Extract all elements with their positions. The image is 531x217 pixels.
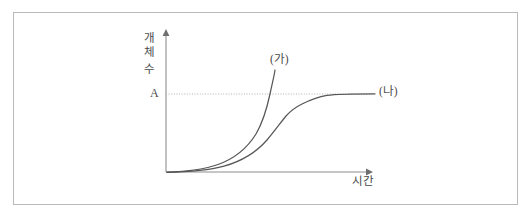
- y-axis-arrowhead: [163, 29, 170, 36]
- y-axis-label-char-3: 수: [138, 63, 160, 77]
- level-a-label: A: [150, 87, 159, 99]
- y-axis-label-char-1: 개: [138, 32, 160, 46]
- curve-na-path: [167, 94, 375, 172]
- curve-ga-path: [167, 70, 275, 172]
- figure-container: 개 체 수 시간 A (가) (나): [0, 0, 531, 217]
- x-axis-label: 시간: [352, 176, 374, 188]
- y-axis-label: 개 체 수: [138, 32, 160, 77]
- growth-curve-plot: [0, 0, 531, 217]
- y-axis-label-char-2: 체: [138, 46, 160, 60]
- curve-ga-label: (가): [270, 54, 289, 66]
- curve-na-label: (나): [379, 86, 398, 98]
